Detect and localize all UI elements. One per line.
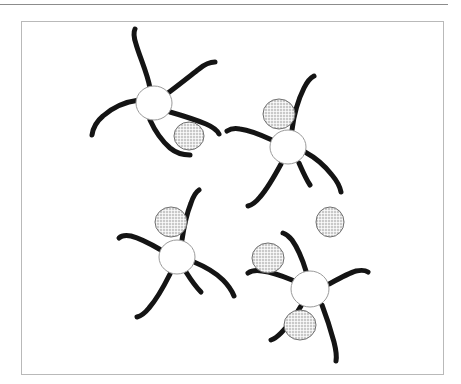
- figure-canvas: [0, 0, 461, 384]
- cell-bottom-left-granules: [155, 207, 187, 237]
- cell-top-left-process-1: [134, 29, 150, 88]
- cell-bottom-left-process-2: [119, 236, 161, 250]
- cell-bottom-right-process-5: [322, 305, 336, 361]
- cells-layer: [92, 29, 368, 361]
- cell-bottom-right-granule-1: [252, 243, 284, 273]
- cell-bottom-left-soma: [159, 240, 195, 274]
- cell-top-left-soma: [136, 86, 172, 120]
- cell-top-left-granule-1: [174, 122, 204, 150]
- cell-bottom-right-granule-2: [284, 310, 316, 340]
- cell-bottom-right: [248, 233, 368, 361]
- cell-bottom-right-process-1: [283, 233, 306, 271]
- cell-bottom-right-process-4: [329, 270, 368, 284]
- cell-top-left-process-2: [168, 62, 215, 93]
- cell-bottom-left-process-3: [137, 274, 170, 317]
- cell-bottom-right-soma: [291, 271, 329, 307]
- free-granules-layer: [316, 207, 344, 237]
- cell-top-right-process-5: [299, 163, 310, 185]
- figure-page: [0, 0, 461, 384]
- cell-top-right-granule-1: [263, 99, 295, 129]
- cell-top-right-process-3: [248, 164, 281, 206]
- cell-bottom-left-granule-1: [155, 207, 187, 237]
- cell-top-right-process-1: [292, 76, 314, 130]
- cell-top-right-granules: [263, 99, 295, 129]
- cell-top-right-soma: [270, 130, 306, 164]
- cell-top-left: [92, 29, 219, 155]
- cell-top-left-granules: [174, 122, 204, 150]
- granule-free-right: [316, 207, 344, 237]
- cell-top-right: [227, 76, 341, 206]
- cell-bottom-left-process-5: [186, 272, 201, 292]
- cell-bottom-left: [119, 190, 234, 317]
- cell-top-right-process-2: [227, 129, 272, 140]
- cell-top-left-process-3: [92, 100, 139, 135]
